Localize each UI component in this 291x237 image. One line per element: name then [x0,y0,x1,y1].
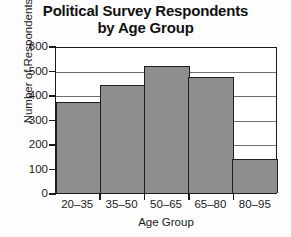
x-tick-label-50-65: 50–65 [144,197,188,213]
bar-65-80[interactable] [188,77,234,193]
y-tick-label-400: 400 [29,90,48,102]
y-axis-tick-labels: 600 500 400 300 200 100 0 [14,47,48,194]
y-tick-label-100: 100 [29,164,48,176]
chart-title-line-1: Political Survey Respondents [0,2,291,19]
x-tick-label-65-80: 65–80 [188,197,232,213]
y-tick-label-200: 200 [29,139,48,151]
x-tick-label-35-50: 35–50 [99,197,143,213]
y-tick-label-300: 300 [29,115,48,127]
bar-chart-figure: Political Survey Respondents by Age Grou… [0,0,291,237]
bar-35-50[interactable] [100,85,146,193]
x-axis-tick-labels: 20–35 35–50 50–65 65–80 80–95 [55,197,277,213]
x-tick-label-20-35: 20–35 [55,197,99,213]
y-tick-label-500: 500 [29,66,48,78]
y-tick-label-600: 600 [29,41,48,53]
bar-50-65[interactable] [144,66,190,193]
bar-series [56,48,276,193]
plot-area [55,47,277,194]
x-tick-label-80-95: 80–95 [233,197,277,213]
y-tick-label-0: 0 [42,188,48,200]
bar-80-95[interactable] [232,159,278,193]
chart-title: Political Survey Respondents by Age Grou… [0,2,291,36]
bar-20-35[interactable] [56,102,102,193]
chart-title-line-2: by Age Group [0,19,291,36]
x-axis-title: Age Group [55,216,277,229]
